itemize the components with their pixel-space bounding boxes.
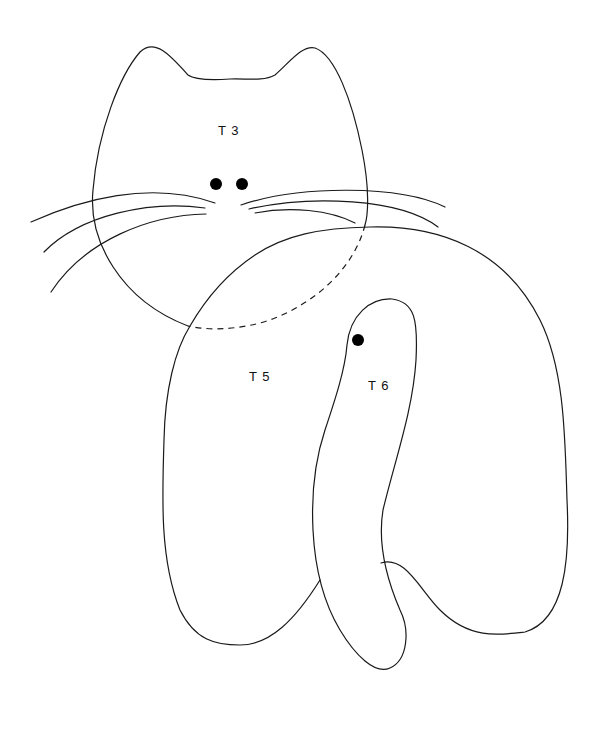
eye-left-icon xyxy=(210,178,222,190)
whisker-right-2 xyxy=(249,201,438,227)
cat-pattern-diagram xyxy=(0,0,600,736)
tail-placement-dot-icon xyxy=(352,334,364,346)
whisker-left-1 xyxy=(31,193,215,222)
whisker-left-2 xyxy=(44,206,205,252)
head-outline xyxy=(92,47,367,326)
piece-label-body: T 5 xyxy=(249,369,271,384)
piece-label-head: T 3 xyxy=(218,123,240,138)
piece-label-tail: T 6 xyxy=(368,378,390,393)
head-hidden-edge xyxy=(188,225,365,329)
body-outline xyxy=(163,227,568,645)
whisker-right-3 xyxy=(255,210,355,223)
tail-outline xyxy=(313,299,417,669)
eye-right-icon xyxy=(236,178,248,190)
whisker-left-3 xyxy=(51,214,206,292)
